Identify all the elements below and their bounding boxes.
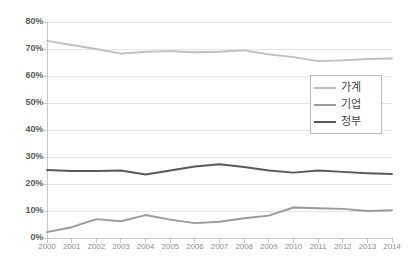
legend-item-label: 가계 xyxy=(341,82,361,93)
y-axis-tick-label: 60% xyxy=(3,71,43,80)
legend-item-label: 기업 xyxy=(341,99,361,110)
y-axis-tick-label: 70% xyxy=(3,44,43,53)
series-line xyxy=(47,41,392,61)
x-axis: 2000200120022003200420052006200720082009… xyxy=(47,243,392,257)
legend-line-swatch-icon xyxy=(314,104,336,106)
series-line xyxy=(47,164,392,174)
y-axis-tick-label: 30% xyxy=(3,152,43,161)
series-line xyxy=(47,207,392,232)
y-axis-tick-label: 50% xyxy=(3,98,43,107)
y-axis-tick-label: 10% xyxy=(3,206,43,215)
legend-item[interactable]: 정부 xyxy=(314,113,377,130)
y-axis: 80%70%60%50%40%30%20%10%0% xyxy=(0,0,43,264)
y-axis-tick-label: 20% xyxy=(3,179,43,188)
legend-item-label: 정부 xyxy=(341,116,361,127)
legend-line-swatch-icon xyxy=(314,121,336,123)
y-axis-tick-label: 40% xyxy=(3,125,43,134)
x-axis-tick-label: 2014 xyxy=(377,243,407,251)
line-chart: 80%70%60%50%40%30%20%10%0% 2000200120022… xyxy=(0,0,418,264)
legend-line-swatch-icon xyxy=(314,87,336,89)
y-axis-tick-label: 0% xyxy=(3,233,43,242)
chart-legend: 가계기업정부 xyxy=(310,75,382,134)
legend-item[interactable]: 가계 xyxy=(314,79,377,96)
legend-item[interactable]: 기업 xyxy=(314,96,377,113)
y-axis-tick-label: 80% xyxy=(3,17,43,26)
